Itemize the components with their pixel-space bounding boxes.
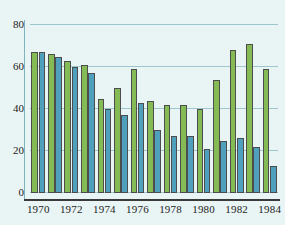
bar-blue-series-1984: [270, 166, 277, 193]
x-tick-label-1976: 1976: [123, 204, 151, 215]
plot-area: [30, 25, 278, 193]
bar-green-series-1977: [147, 101, 154, 193]
bar-green-series-1984: [263, 69, 270, 193]
x-tick-label-1978: 1978: [157, 204, 185, 215]
bar-blue-series-1970: [39, 52, 46, 193]
x-tick-label-1974: 1974: [90, 204, 118, 215]
y-tick-label-20: 20: [0, 145, 24, 156]
bar-green-series-1979: [180, 105, 187, 193]
y-tick-label-40: 40: [0, 103, 24, 114]
bar-blue-series-1975: [121, 115, 128, 193]
x-axis-tick-labels: 19701972197419761978198019821984: [30, 201, 278, 221]
bar-green-series-1975: [114, 88, 121, 193]
bar-blue-series-1980: [204, 149, 211, 193]
bar-blue-series-1981: [220, 141, 227, 194]
bar-green-series-1983: [246, 44, 253, 193]
y-tick-label-0: 0: [0, 187, 24, 198]
x-tick-label-1982: 1982: [223, 204, 251, 215]
bar-green-series-1971: [48, 54, 55, 193]
bar-blue-series-1982: [237, 138, 244, 193]
bar-green-series-1980: [197, 109, 204, 193]
x-tick-label-1984: 1984: [256, 204, 284, 215]
bar-blue-series-1971: [55, 57, 62, 194]
bar-green-series-1973: [81, 65, 88, 193]
bar-green-series-1978: [164, 105, 171, 193]
y-tick-label-80: 80: [0, 19, 24, 30]
bar-blue-series-1972: [72, 67, 79, 193]
bar-green-series-1982: [230, 50, 237, 193]
bar-blue-series-1976: [138, 103, 145, 193]
bar-blue-series-1983: [253, 147, 260, 193]
bar-blue-series-1977: [154, 130, 161, 193]
bar-green-series-1972: [64, 61, 71, 193]
x-tick-label-1970: 1970: [24, 204, 52, 215]
bar-blue-series-1974: [105, 109, 112, 193]
bar-green-series-1970: [31, 52, 38, 193]
bar-blue-series-1978: [171, 136, 178, 193]
x-tick-label-1972: 1972: [57, 204, 85, 215]
bar-green-series-1981: [213, 80, 220, 193]
bar-blue-series-1973: [88, 73, 95, 193]
bar-blue-series-1979: [187, 136, 194, 193]
y-tick-label-60: 60: [0, 61, 24, 72]
bar-chart: 020406080 197019721974197619781980198219…: [0, 0, 285, 225]
bar-green-series-1976: [131, 69, 138, 193]
x-tick-label-1980: 1980: [190, 204, 218, 215]
bar-green-series-1974: [98, 99, 105, 194]
gridline-80: [30, 24, 278, 25]
